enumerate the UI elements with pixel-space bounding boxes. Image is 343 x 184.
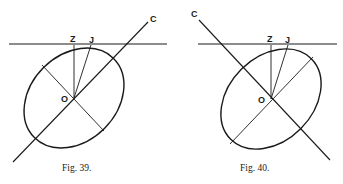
minor-axis: [42, 65, 104, 131]
major-axis: [230, 57, 313, 144]
caption: Fig. 40.: [240, 163, 269, 173]
caption: Fig. 39.: [62, 163, 91, 173]
label-o: O: [258, 95, 265, 105]
label-z: Z: [267, 34, 273, 44]
figure-39: C Z J O Fig. 39.: [4, 14, 167, 173]
figure-40: C Z J O Fig. 40.: [191, 9, 341, 173]
line-oj: [271, 45, 288, 99]
label-c: C: [150, 14, 157, 24]
axis-oc: [13, 22, 148, 162]
label-j: J: [89, 35, 94, 45]
label-c: C: [191, 9, 198, 19]
label-z: Z: [70, 34, 76, 44]
label-j: J: [285, 35, 290, 45]
label-o: O: [61, 94, 68, 104]
axis-oc: [199, 20, 330, 160]
diagram-canvas: C Z J O Fig. 39. C Z J O Fig. 40.: [0, 0, 343, 184]
